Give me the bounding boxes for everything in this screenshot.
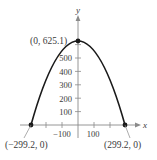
y-tick-label-200: 200 — [59, 94, 72, 104]
vertex-label: (0, 625.1) — [30, 36, 67, 47]
y-axis-label: y — [75, 5, 80, 15]
y-tick-label-400: 400 — [59, 67, 72, 77]
x-tick-label-neg100: −100 — [53, 129, 71, 139]
x-tick-label-100: 100 — [87, 129, 100, 139]
x-axis-label: x — [142, 120, 147, 130]
parabola-chart: y x 500 400 300 200 100 −100 100 (0, 625… — [0, 0, 157, 160]
chart-svg: y x 500 400 300 200 100 −100 100 (0, 625… — [0, 0, 157, 160]
vertex-point — [76, 39, 81, 44]
left-root-leader — [24, 125, 31, 138]
y-axis-arrow-icon — [76, 15, 81, 21]
right-root-label: (299.2, 0) — [104, 140, 141, 151]
left-root-label: (−299.2, 0) — [5, 140, 48, 151]
right-root-leader — [125, 125, 130, 138]
x-axis-arrow-icon — [135, 123, 141, 128]
y-tick-label-500: 500 — [59, 53, 72, 63]
y-tick-label-100: 100 — [59, 107, 72, 117]
y-tick-label-300: 300 — [59, 80, 72, 90]
y-axis — [75, 15, 81, 138]
